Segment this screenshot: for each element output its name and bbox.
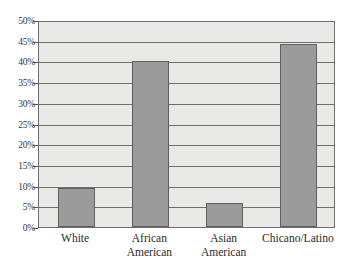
x-axis-category-label: Chicano/Latino [261, 231, 335, 245]
y-axis-tick-label: 20% [5, 140, 35, 150]
y-axis-tick-mark [33, 166, 38, 167]
y-axis-tick-label: 30% [5, 99, 35, 109]
bar [280, 44, 317, 227]
y-axis-tick-label: 5% [5, 202, 35, 212]
y-axis-tick-mark [33, 228, 38, 229]
y-axis-tick-mark [33, 125, 38, 126]
plot-area [38, 21, 335, 228]
y-axis-tick-mark [33, 83, 38, 84]
gridline [39, 42, 334, 43]
y-axis-tick-label: 35% [5, 78, 35, 88]
y-axis-tick-mark [33, 207, 38, 208]
x-axis-category-label-line: African [112, 231, 186, 245]
x-axis-category-label-line: American [112, 245, 186, 259]
x-axis-category-labels: WhiteAfricanAmericanAsianAmericanChicano… [38, 231, 335, 272]
y-axis-tick-label: 25% [5, 120, 35, 130]
y-axis-tick-mark [33, 62, 38, 63]
x-axis-category-label-line: American [187, 245, 261, 259]
y-axis-tick-mark [33, 187, 38, 188]
y-axis-tick-mark [33, 21, 38, 22]
y-axis-tick-label: 45% [5, 37, 35, 47]
y-axis-tick-label: 0% [5, 223, 35, 233]
bar [206, 203, 243, 227]
y-axis-tick-label: 15% [5, 161, 35, 171]
x-axis-category-label: White [38, 231, 112, 245]
y-axis-tick-label: 50% [5, 16, 35, 26]
x-axis-category-label: AsianAmerican [187, 231, 261, 259]
bar-chart: 50%45%40%35%30%25%20%15%10%5%0% WhiteAfr… [0, 0, 348, 272]
x-axis-category-label-line: White [38, 231, 112, 245]
x-axis-category-label: AfricanAmerican [112, 231, 186, 259]
bar [58, 188, 95, 227]
y-axis-tick-mark [33, 145, 38, 146]
y-axis-tick-label: 40% [5, 57, 35, 67]
x-axis-category-label-line: Chicano/Latino [261, 231, 335, 245]
y-axis-tick-mark [33, 42, 38, 43]
y-axis-tick-labels: 50%45%40%35%30%25%20%15%10%5%0% [2, 0, 35, 272]
x-axis-category-label-line: Asian [187, 231, 261, 245]
y-axis-tick-mark [33, 104, 38, 105]
bar [132, 61, 169, 227]
y-axis-tick-marks [38, 21, 39, 228]
y-axis-tick-label: 10% [5, 182, 35, 192]
